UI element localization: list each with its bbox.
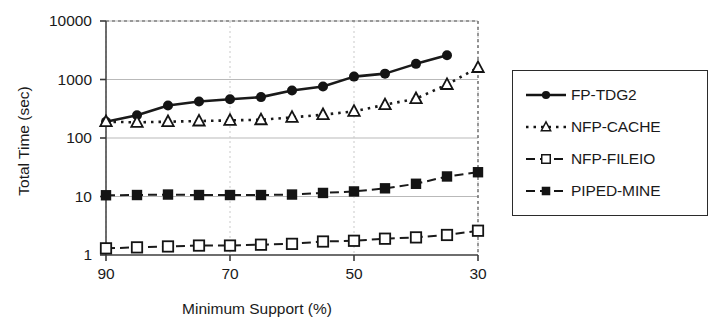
chart-figure: 10000 1000 100 10 1 90 70 50 30 Minimum … [0, 0, 500, 332]
x-tick-label-70: 70 [200, 265, 260, 283]
legend-item-fp-tdg2: FP-TDG2 [513, 79, 707, 111]
legend-item-nfp-fileio: NFP-FILEIO [513, 143, 707, 175]
series-fp-tdg2 [101, 50, 452, 126]
x-tick-label-30: 30 [448, 265, 508, 283]
legend-sample-filled-circle-icon [525, 86, 567, 104]
legend-item-nfp-cache: NFP-CACHE [513, 111, 707, 143]
legend-label-nfp-cache: NFP-CACHE [571, 118, 661, 136]
x-axis-title: Minimum Support (%) [0, 300, 500, 318]
axis-ticks [100, 21, 478, 261]
legend-item-piped-mine: PIPED-MINE [513, 175, 707, 207]
legend-sample-open-triangle-icon [525, 118, 567, 136]
legend-label-fp-tdg2: FP-TDG2 [571, 86, 637, 104]
legend-sample-open-square-icon [525, 150, 567, 168]
data-series-layer [100, 50, 483, 253]
series-nfp-fileio [101, 226, 483, 254]
y-tick-label-1: 1 [20, 246, 92, 264]
chart-page: 10000 1000 100 10 1 90 70 50 30 Minimum … [0, 0, 723, 332]
legend-label-nfp-fileio: NFP-FILEIO [571, 150, 655, 168]
x-tick-label-90: 90 [76, 265, 136, 283]
gridlines [106, 21, 478, 255]
x-tick-label-50: 50 [324, 265, 384, 283]
series-piped-mine [101, 167, 483, 200]
y-axis-title: Total Time (sec) [15, 61, 33, 221]
chart-legend: FP-TDG2 NFP-CACHE NFP-FILEIO PIPED-MINE [512, 70, 708, 216]
y-tick-label-10000: 10000 [20, 12, 92, 30]
legend-label-piped-mine: PIPED-MINE [571, 182, 660, 200]
legend-sample-filled-square-icon [525, 182, 567, 200]
